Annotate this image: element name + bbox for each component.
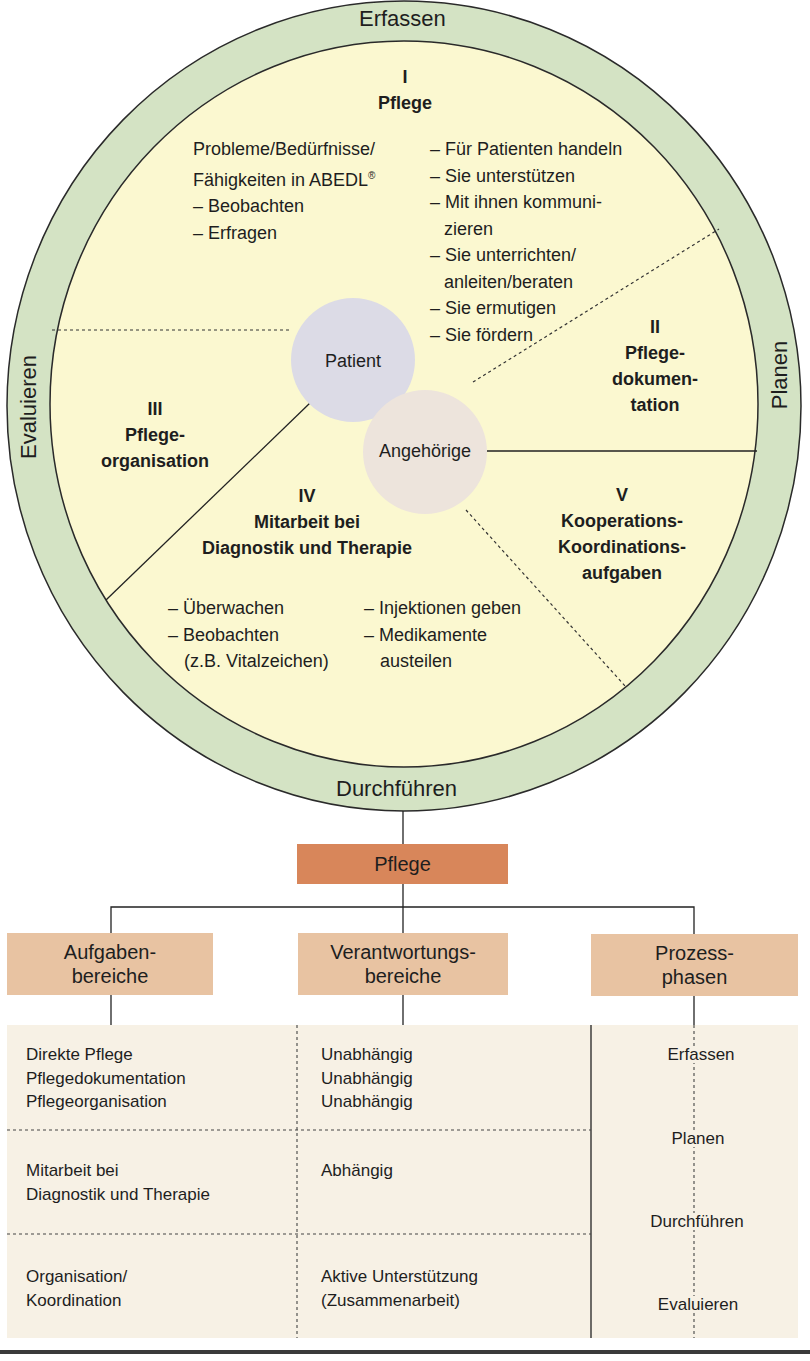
ring-label-bottom: Durchführen bbox=[336, 778, 457, 800]
text-line: zieren bbox=[430, 216, 622, 243]
phase-durchfuehren: Durchführen bbox=[648, 1213, 746, 1230]
phase-planen: Planen bbox=[670, 1130, 727, 1147]
section-4-heading: IV Mitarbeit bei Diagnostik und Therapie bbox=[202, 483, 412, 561]
diagram-graphics bbox=[0, 0, 810, 1361]
pflege-root-box: Pflege bbox=[297, 844, 508, 884]
registered-mark: ® bbox=[368, 170, 375, 181]
section-4-title-line: Diagnostik und Therapie bbox=[202, 535, 412, 561]
text-line: – Überwachen bbox=[168, 595, 329, 622]
section-1-right-text: – Für Patienten handeln – Sie unterstütz… bbox=[430, 136, 622, 348]
section-4-title-line: Mitarbeit bei bbox=[202, 509, 412, 535]
category-box-aufgaben: Aufgaben- bereiche bbox=[7, 933, 213, 995]
category-box-verantwortung: Verantwortungs- bereiche bbox=[298, 933, 508, 995]
section-3-title-line: organisation bbox=[101, 448, 209, 474]
section-5-title-line: aufgaben bbox=[558, 560, 686, 586]
section-3-title-line: Pflege- bbox=[101, 422, 209, 448]
section-2-numeral: II bbox=[612, 314, 698, 340]
bottom-rule bbox=[0, 1350, 810, 1354]
section-1-left-text: Probleme/Bedürfnisse/ Fähigkeiten in ABE… bbox=[193, 136, 375, 246]
section-4-right-text: – Injektionen geben – Medikamente austei… bbox=[364, 595, 521, 675]
angehoerige-label: Angehörige bbox=[379, 442, 471, 460]
text-line: Probleme/Bedürfnisse/ bbox=[193, 136, 375, 163]
text-line: – Erfragen bbox=[193, 220, 375, 247]
text-line: – Sie ermutigen bbox=[430, 295, 622, 322]
table-cell-aufgaben-row-1: Direkte Pflege Pflegedokumentation Pfleg… bbox=[26, 1043, 186, 1114]
text-line: – Beobachten bbox=[193, 193, 375, 220]
section-5-numeral: V bbox=[558, 482, 686, 508]
ring-label-left: Evaluieren bbox=[18, 355, 40, 459]
section-2-title-line: dokumen- bbox=[612, 366, 698, 392]
table-cell-verantwortung-row-3: Aktive Unterstützung (Zusammenarbeit) bbox=[321, 1265, 478, 1312]
text-line: austeilen bbox=[364, 648, 521, 675]
patient-label: Patient bbox=[325, 352, 381, 370]
table-cell-verantwortung-row-1: Unabhängig Unabhängig Unabhängig bbox=[321, 1043, 413, 1114]
text-line: anleiten/beraten bbox=[430, 269, 622, 296]
section-2-heading: II Pflege- dokumen- tation bbox=[612, 314, 698, 418]
table-cell-aufgaben-row-2: Mitarbeit bei Diagnostik und Therapie bbox=[26, 1159, 210, 1206]
section-2-title-line: tation bbox=[612, 392, 698, 418]
ring-label-right: Planen bbox=[769, 341, 791, 410]
table-cell-verantwortung-row-2: Abhängig bbox=[321, 1159, 393, 1183]
category-box-prozess: Prozess- phasen bbox=[591, 934, 798, 996]
section-5-title-line: Koordinations- bbox=[558, 534, 686, 560]
text-line: – Beobachten bbox=[168, 622, 329, 649]
pflege-root-label: Pflege bbox=[374, 852, 431, 876]
text-line: – Sie unterstützen bbox=[430, 163, 622, 190]
phase-evaluieren: Evaluieren bbox=[656, 1296, 740, 1313]
section-4-numeral: IV bbox=[202, 483, 412, 509]
category-label: Aufgaben- bereiche bbox=[64, 940, 156, 988]
section-1-title: Pflege bbox=[378, 90, 432, 116]
section-5-heading: V Kooperations- Koordinations- aufgaben bbox=[558, 482, 686, 586]
section-3-heading: III Pflege- organisation bbox=[101, 396, 209, 474]
text-line: – Medikamente bbox=[364, 622, 521, 649]
phase-erfassen: Erfassen bbox=[665, 1046, 736, 1063]
section-1-numeral: I bbox=[402, 64, 407, 90]
section-5-title-line: Kooperations- bbox=[558, 508, 686, 534]
text-line: – Sie unterrichten/ bbox=[430, 242, 622, 269]
section-4-left-text: – Überwachen – Beobachten (z.B. Vitalzei… bbox=[168, 595, 329, 675]
text-line: – Für Patienten handeln bbox=[430, 136, 622, 163]
text-line: – Injektionen geben bbox=[364, 595, 521, 622]
section-3-numeral: III bbox=[101, 396, 209, 422]
text-line: Fähigkeiten in ABEDL® bbox=[193, 163, 375, 194]
category-label: Prozess- phasen bbox=[655, 941, 734, 989]
text-line: (z.B. Vitalzeichen) bbox=[168, 648, 329, 675]
text-line: – Sie fördern bbox=[430, 322, 622, 349]
table-cell-aufgaben-row-3: Organisation/ Koordination bbox=[26, 1265, 127, 1312]
ring-label-top: Erfassen bbox=[359, 8, 446, 30]
text-line: – Mit ihnen kommuni- bbox=[430, 189, 622, 216]
category-label: Verantwortungs- bereiche bbox=[330, 940, 476, 988]
section-2-title-line: Pflege- bbox=[612, 340, 698, 366]
